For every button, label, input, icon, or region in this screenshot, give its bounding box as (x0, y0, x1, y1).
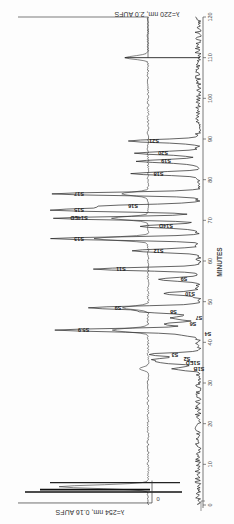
peak-label: S21 (149, 138, 159, 144)
tick-label: 80 (207, 177, 213, 183)
peak-label: S19 (161, 158, 171, 164)
tick-label: 30 (207, 380, 213, 386)
peak-label: S2 (184, 356, 191, 362)
peak-label: S14D (159, 223, 173, 229)
peak-label: S12 (154, 248, 164, 254)
peak-label: S9 (115, 305, 122, 311)
peak-label: S6 (190, 321, 197, 327)
tick-label: 60 (207, 258, 213, 264)
tick-label: 40 (207, 339, 213, 345)
tick-label: 10 (207, 461, 213, 467)
tick-label: 90 (207, 136, 213, 142)
tick-label: 0 (207, 503, 213, 506)
peak-label: S14ED (70, 215, 87, 221)
peak-label: S3 (172, 352, 179, 358)
tick-label: 20 (207, 421, 213, 427)
tick-label: 50 (207, 299, 213, 305)
peak-label: S1B (194, 366, 205, 372)
peak-label: S8 (170, 309, 177, 315)
peak-label: S10 (185, 291, 195, 297)
tick-label: 110 (207, 53, 213, 62)
peak-label: S18 (154, 171, 164, 177)
tick-label: 100 (207, 94, 213, 103)
peak-label: S13 (74, 236, 84, 242)
chromatogram: 0102030405060708090100110120 S1BS1EDS2S3… (0, 0, 234, 524)
peak-label: S20 (158, 150, 168, 156)
peak-label: S7 (196, 315, 203, 321)
axis-title: MINUTES (216, 247, 223, 277)
peak-label: S4 (204, 331, 212, 337)
top-caption: λ=220 nm, 2.0 AUFS (114, 11, 179, 18)
peak-label: S5.9 (78, 327, 89, 333)
tick-label: 70 (207, 217, 213, 223)
peak-label: S11 (116, 266, 125, 272)
bottom-caption: λ=254 nm, 0.16 AUFS (55, 509, 124, 516)
peak-label: S9 (181, 276, 188, 282)
tick-label: 120 (207, 12, 213, 21)
peak-label: S15 (74, 207, 84, 213)
peak-label: S17 (74, 191, 84, 197)
peak-label: S16 (128, 203, 138, 209)
